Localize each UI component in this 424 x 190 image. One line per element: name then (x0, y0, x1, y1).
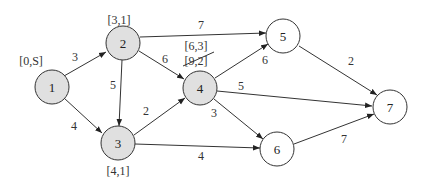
weight-1-3: 4 (71, 119, 77, 133)
node-3-label: 3 (115, 136, 122, 151)
node-4: 4 (183, 71, 217, 105)
weight-2-4: 6 (162, 52, 168, 66)
node-5-label: 5 (280, 29, 287, 44)
weight-5-7: 2 (348, 54, 354, 68)
edge-1-2 (64, 52, 106, 76)
weight-2-3: 5 (110, 78, 116, 92)
weight-3-4: 2 (143, 104, 149, 118)
weight-2-5: 7 (198, 18, 204, 32)
weight-6-7: 7 (341, 132, 347, 146)
edge-3-6 (135, 144, 260, 148)
node-1-label: 1 (49, 80, 56, 95)
node-3: 3 (101, 126, 135, 160)
node-2-annotation: [3,1] (108, 13, 131, 27)
weight-4-5: 6 (262, 53, 268, 67)
node-3-annotation: [4,1] (107, 164, 130, 178)
weight-4-7: 5 (238, 79, 244, 93)
node-4-label: 4 (197, 81, 204, 96)
node-4-annotation-struck-group: [9,2] (183, 52, 214, 68)
node-1-annotation: [0,S] (19, 54, 43, 68)
edge-4-7 (217, 91, 372, 106)
edge-1-3 (64, 98, 102, 133)
node-6: 6 (260, 132, 294, 166)
weight-4-6: 3 (211, 106, 217, 120)
graph-diagram: 3 4 5 6 7 2 4 6 3 5 2 7 1 2 3 4 5 6 7 (0, 0, 424, 190)
node-5: 5 (266, 19, 300, 53)
node-1: 1 (35, 70, 69, 104)
edge-5-7 (299, 46, 377, 95)
node-7-label: 7 (387, 100, 394, 115)
node-7: 7 (373, 90, 407, 124)
weight-1-2: 3 (72, 50, 78, 64)
weight-3-6: 4 (198, 149, 204, 163)
edge-3-4 (134, 98, 185, 135)
node-2-label: 2 (120, 36, 127, 51)
node-4-annotation: [6,3] (185, 39, 208, 53)
node-6-label: 6 (274, 142, 281, 157)
edge-2-5 (140, 33, 266, 37)
edge-4-6 (214, 99, 263, 139)
edge-6-7 (294, 114, 374, 144)
node-2: 2 (106, 26, 140, 60)
edge-2-3 (119, 60, 122, 126)
edge-4-5 (215, 44, 268, 78)
